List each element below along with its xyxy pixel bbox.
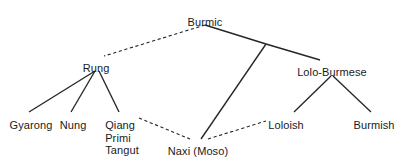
tree-edge-junction-loloburmese — [266, 44, 320, 60]
tree-edge-loloburmese-burmish — [333, 76, 371, 112]
tree-node-naxi: Naxi (Moso) — [168, 145, 228, 158]
tree-diagram: BurmicRungLolo-BurmeseGyarongNungQiangPr… — [0, 0, 399, 162]
tree-node-label: Loloish — [268, 119, 304, 132]
tree-edge-loloburmese-loloish — [294, 76, 331, 112]
tree-node-label: Burmic — [188, 16, 223, 29]
tree-node-burmish: Burmish — [353, 119, 394, 132]
tree-node-qiang_group: QiangPrimiTangut — [105, 119, 139, 157]
tree-edge-naxi-loloish — [208, 121, 266, 139]
tree-node-label: Lolo-Burmese — [297, 66, 367, 79]
tree-node-lolo_burmese: Lolo-Burmese — [297, 66, 367, 79]
tree-edge-qiang-naxi — [139, 118, 190, 139]
tree-node-label: Gyarong — [10, 119, 53, 132]
tree-node-label: Qiang — [105, 119, 139, 132]
tree-node-label-extra: Primi — [105, 132, 139, 145]
tree-node-label: Rung — [83, 62, 110, 75]
tree-node-gyarong: Gyarong — [10, 119, 53, 132]
tree-node-rung: Rung — [83, 62, 110, 75]
tree-node-label: Burmish — [353, 119, 394, 132]
tree-edge-junction-naxi — [201, 44, 266, 139]
tree-node-label: Naxi (Moso) — [168, 145, 228, 158]
tree-node-burmic: Burmic — [188, 16, 223, 29]
tree-edge-rung-nung — [71, 71, 95, 112]
tree-edge-rung-qiang — [99, 71, 119, 112]
tree-node-label: Nung — [60, 119, 87, 132]
tree-edge-rung-gyarong — [29, 71, 95, 112]
tree-node-loloish: Loloish — [268, 119, 304, 132]
tree-node-nung: Nung — [60, 119, 87, 132]
tree-edge-burmic-rung — [104, 25, 205, 56]
tree-node-label-extra: Tangut — [105, 144, 139, 157]
